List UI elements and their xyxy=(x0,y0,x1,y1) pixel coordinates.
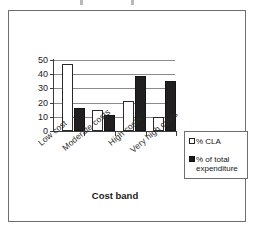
legend-swatch-light-icon xyxy=(189,138,195,144)
legend-label-cla: % CLA xyxy=(196,137,221,146)
chart-legend: % CLA % of total expenditure xyxy=(184,131,248,179)
x-axis-title: Cost band xyxy=(55,190,175,201)
legend-item-total-expenditure: % of total expenditure xyxy=(189,155,244,173)
legend-label-total-expenditure: % of total expenditure xyxy=(196,155,238,173)
chart-figure: 50 40 30 20 10 0 Low cost Moderate costs… xyxy=(0,0,255,232)
legend-swatch-dark-icon xyxy=(189,156,195,162)
x-axis-label-moderate-costs: Moderate costs xyxy=(60,107,112,153)
legend-item-cla: % CLA xyxy=(189,137,244,146)
